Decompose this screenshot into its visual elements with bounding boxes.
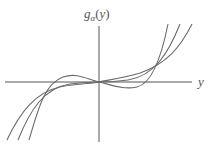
x-axis-label: y xyxy=(198,74,204,90)
cubic-family-diagram: gα(y) y xyxy=(0,0,217,151)
y-axis-label: gα(y) xyxy=(84,6,110,23)
